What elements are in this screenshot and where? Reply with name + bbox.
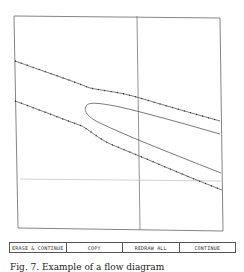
vertical-divider-line [137, 16, 140, 230]
erase-and-continue-button[interactable]: ERASE & CONTINUE [9, 242, 66, 253]
curve-upper-boundary [15, 61, 220, 121]
continue-button[interactable]: CONTINUE [179, 242, 237, 253]
curve-lower-boundary [15, 101, 222, 190]
plot-canvas [0, 0, 244, 236]
redraw-all-button[interactable]: REDRAW ALL [122, 242, 179, 253]
curve-lower-boundary-dots [15, 101, 222, 190]
toolbar: ERASE & CONTINUE COPY REDRAW ALL CONTINU… [9, 242, 236, 253]
plot-frame [14, 16, 223, 231]
copy-button[interactable]: COPY [66, 242, 123, 253]
horizontal-reference-line [20, 179, 221, 181]
figure-caption: Fig. 7. Example of a flow diagram [10, 262, 164, 272]
